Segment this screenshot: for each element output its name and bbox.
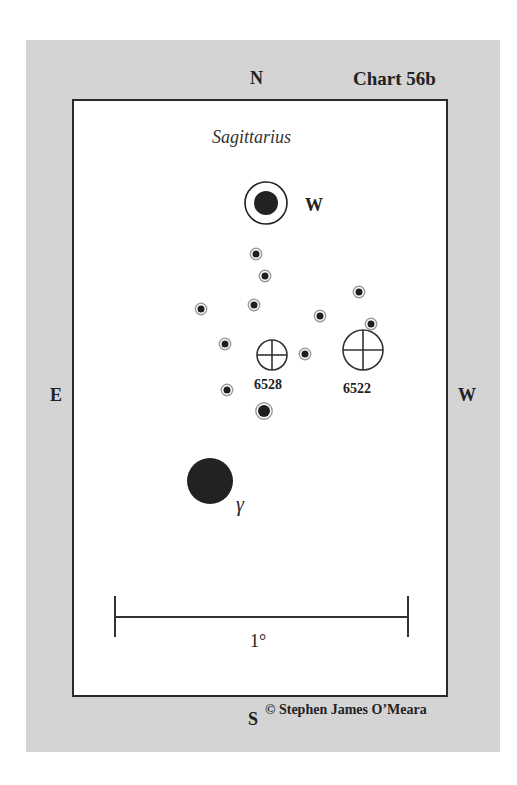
field-star [250, 248, 261, 259]
field-stars [195, 248, 376, 419]
globular-cluster-icon [343, 330, 383, 370]
field-star [353, 286, 364, 297]
globular-cluster-icon [257, 340, 287, 370]
globular-cluster-markers [257, 330, 383, 370]
field-star [219, 338, 230, 349]
field-star [365, 318, 376, 329]
star-chart-graphics [0, 0, 517, 785]
field-star [299, 348, 310, 359]
gamma-star-marker [187, 458, 233, 504]
field-star [221, 384, 232, 395]
field-star [248, 299, 259, 310]
field-star [256, 403, 272, 419]
field-star [259, 270, 270, 281]
scale-bar [115, 596, 408, 637]
star-w-marker [245, 182, 287, 224]
field-star [195, 303, 206, 314]
field-star [314, 310, 325, 321]
